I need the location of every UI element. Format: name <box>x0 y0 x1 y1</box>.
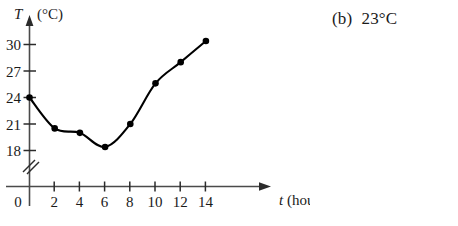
xtick-label-14: 14 <box>198 194 214 210</box>
data-point <box>26 94 33 101</box>
y-axis-symbol: T <box>14 6 24 22</box>
xtick-label-6: 6 <box>101 194 109 210</box>
y-axis-break-icon <box>23 160 39 174</box>
ytick-label-21: 21 <box>6 117 21 133</box>
xtick-label-4: 4 <box>76 194 84 210</box>
data-point <box>177 59 184 66</box>
data-point <box>77 130 84 137</box>
origin-label: 0 <box>14 194 22 210</box>
figure-page: 30 27 24 21 18 0 2 4 6 8 10 12 14 T (°C)… <box>0 0 458 226</box>
answer-block: (b) 23°C <box>332 9 397 29</box>
answer-part-label: (b) <box>332 9 352 29</box>
xtick-label-8: 8 <box>126 194 134 210</box>
y-axis <box>26 15 34 206</box>
data-point-markers <box>26 38 209 151</box>
data-point <box>152 80 159 87</box>
xtick-label-12: 12 <box>173 194 188 210</box>
data-point <box>127 121 134 128</box>
ytick-label-18: 18 <box>6 143 21 159</box>
data-point <box>203 38 210 45</box>
chart-svg: 30 27 24 21 18 0 2 4 6 8 10 12 14 T (°C)… <box>0 0 310 226</box>
y-axis-unit: (°C) <box>37 6 63 23</box>
x-axis-unit: (hours) <box>287 192 310 209</box>
ytick-label-27: 27 <box>6 64 22 80</box>
ytick-label-24: 24 <box>6 90 22 106</box>
ytick-label-30: 30 <box>6 37 21 53</box>
temperature-line-chart: 30 27 24 21 18 0 2 4 6 8 10 12 14 T (°C)… <box>0 0 310 226</box>
xtick-label-2: 2 <box>50 194 58 210</box>
xtick-label-10: 10 <box>148 194 163 210</box>
x-axis-symbol: t <box>279 192 284 208</box>
data-point <box>102 144 109 151</box>
data-point <box>51 125 58 132</box>
answer-value: 23°C <box>361 9 397 29</box>
x-axis <box>6 182 271 191</box>
